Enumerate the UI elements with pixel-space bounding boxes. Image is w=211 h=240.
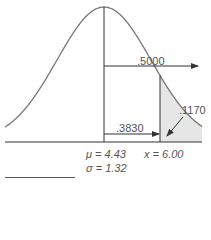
right-half-area-label: .5000: [137, 55, 165, 67]
tail-area-label: .1170: [179, 104, 206, 116]
mean-label: μ = 4.43: [86, 148, 126, 160]
x-value-label: x = 6.00: [144, 148, 183, 160]
footer-rule: [5, 177, 75, 178]
mean-to-x-area-label: .3830: [116, 122, 144, 134]
sd-label: σ = 1.32: [86, 162, 127, 174]
